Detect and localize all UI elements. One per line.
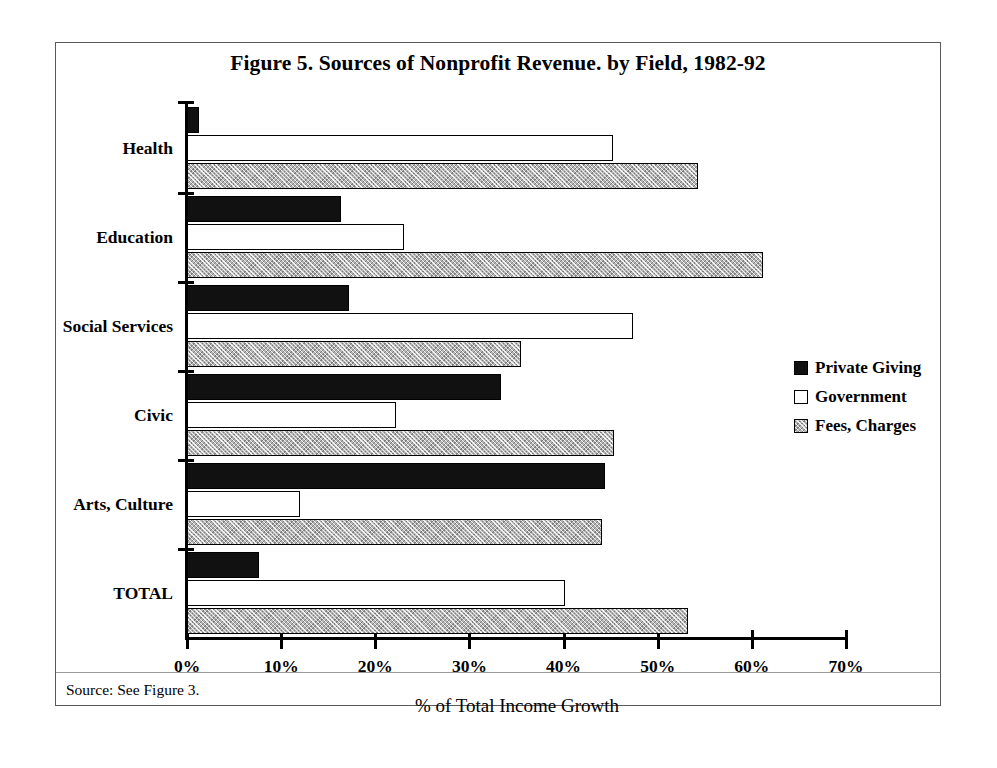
bar-private-giving bbox=[187, 463, 605, 489]
category-label: Arts, Culture bbox=[73, 493, 173, 514]
bar-fees-charges bbox=[187, 163, 698, 189]
bar-private-giving bbox=[187, 374, 501, 400]
solid-black-swatch bbox=[794, 361, 808, 375]
x-tick-label: 60% bbox=[734, 656, 769, 677]
plot-area: 0%10%20%30%40%50%60%70% HealthEducationS… bbox=[187, 103, 847, 637]
chart-title: Figure 5. Sources of Nonprofit Revenue. … bbox=[56, 51, 940, 76]
footer-divider bbox=[56, 672, 940, 673]
legend-item-label: Private Giving bbox=[815, 358, 921, 378]
x-axis-line bbox=[185, 637, 848, 640]
x-tick-label: 50% bbox=[640, 656, 675, 677]
bar-group: Civic bbox=[187, 370, 847, 459]
bar-government bbox=[187, 491, 300, 517]
x-tick-label: 20% bbox=[358, 656, 393, 677]
chart-legend: Private GivingGovernmentFees, Charges bbox=[794, 358, 921, 445]
category-label: Education bbox=[96, 226, 173, 247]
x-tick-label: 30% bbox=[452, 656, 487, 677]
bar-group: TOTAL bbox=[187, 548, 847, 637]
bar-fees-charges bbox=[187, 608, 688, 634]
bar-government bbox=[187, 313, 633, 339]
legend-item: Private Giving bbox=[794, 358, 921, 378]
bar-group: Social Services bbox=[187, 281, 847, 370]
legend-item-label: Government bbox=[815, 387, 907, 407]
category-label: Health bbox=[122, 137, 173, 158]
white-outline-swatch bbox=[794, 390, 808, 404]
category-label: TOTAL bbox=[113, 582, 173, 603]
x-tick-label: 40% bbox=[546, 656, 581, 677]
x-tick-label: 0% bbox=[174, 656, 200, 677]
category-label: Civic bbox=[134, 404, 173, 425]
bar-group: Health bbox=[187, 103, 847, 192]
bar-group: Education bbox=[187, 192, 847, 281]
x-axis-title: % of Total Income Growth bbox=[187, 695, 847, 717]
x-tick-label: 70% bbox=[829, 656, 864, 677]
bar-government bbox=[187, 135, 613, 161]
bar-government bbox=[187, 402, 396, 428]
bar-fees-charges bbox=[187, 430, 614, 456]
bar-government bbox=[187, 580, 565, 606]
legend-item: Government bbox=[794, 387, 921, 407]
legend-item: Fees, Charges bbox=[794, 416, 921, 436]
bar-group: Arts, Culture bbox=[187, 459, 847, 548]
bar-fees-charges bbox=[187, 252, 763, 278]
bar-private-giving bbox=[187, 552, 259, 578]
source-note: Source: See Figure 3. bbox=[66, 681, 199, 699]
bar-government bbox=[187, 224, 404, 250]
bar-private-giving bbox=[187, 196, 341, 222]
category-label: Social Services bbox=[63, 315, 173, 336]
legend-item-label: Fees, Charges bbox=[815, 416, 916, 436]
bar-private-giving bbox=[187, 285, 349, 311]
gray-hatched-swatch bbox=[794, 419, 808, 433]
bar-fees-charges bbox=[187, 341, 521, 367]
figure-frame: Figure 5. Sources of Nonprofit Revenue. … bbox=[55, 42, 941, 706]
x-tick-label: 10% bbox=[264, 656, 299, 677]
bar-private-giving bbox=[187, 107, 199, 133]
bar-fees-charges bbox=[187, 519, 602, 545]
